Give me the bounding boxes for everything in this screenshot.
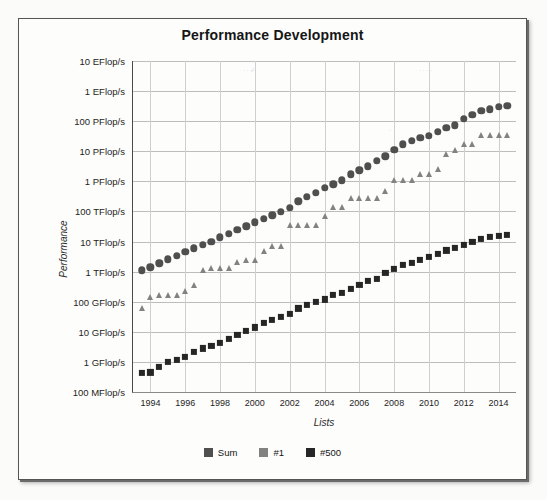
data-point-rank500 [304, 302, 310, 308]
data-point-rank1 [278, 243, 284, 249]
data-point-rank1 [365, 195, 371, 201]
gridline-vertical [150, 61, 151, 392]
y-axis-tick-label: 1 GFlop/s [84, 356, 125, 367]
data-point-Sum [451, 121, 458, 128]
data-point-rank1 [174, 292, 180, 298]
legend-label: Sum [218, 447, 238, 458]
gridline-vertical [464, 61, 465, 392]
y-axis-tick-label: 10 EFlop/s [80, 56, 125, 67]
data-point-rank500 [356, 282, 362, 288]
data-point-rank1 [156, 292, 162, 298]
data-point-Sum [199, 241, 206, 248]
data-point-Sum [338, 176, 345, 183]
data-point-Sum [173, 252, 180, 259]
legend-swatch-icon [204, 448, 213, 457]
data-point-rank500 [269, 317, 275, 323]
data-point-rank1 [182, 288, 188, 294]
data-point-rank500 [217, 339, 223, 345]
data-point-Sum [364, 162, 371, 169]
gridline-vertical [185, 61, 186, 392]
data-point-rank1 [391, 177, 397, 183]
data-point-rank500 [278, 314, 284, 320]
data-point-rank500 [287, 311, 293, 317]
data-point-rank500 [391, 266, 397, 272]
data-point-Sum [321, 184, 328, 191]
chart-title: Performance Development [19, 27, 526, 43]
gridline-vertical [394, 61, 395, 392]
gridline-vertical [499, 61, 500, 392]
y-axis-tick-label: 10 PFlop/s [80, 146, 125, 157]
gridline-vertical [325, 61, 326, 392]
data-point-Sum [216, 233, 223, 240]
data-point-Sum [303, 193, 310, 200]
data-point-rank500 [461, 242, 467, 248]
data-point-Sum [504, 102, 511, 109]
data-point-rank1 [313, 222, 319, 228]
data-point-Sum [356, 167, 363, 174]
data-point-Sum [234, 226, 241, 233]
data-point-rank500 [365, 278, 371, 284]
data-point-rank500 [348, 286, 354, 292]
data-point-rank1 [322, 213, 328, 219]
data-point-rank500 [330, 292, 336, 298]
data-point-rank500 [295, 305, 301, 311]
data-point-Sum [373, 157, 380, 164]
data-point-rank500 [426, 254, 432, 260]
x-axis-tick-label: 1996 [175, 398, 195, 408]
data-point-rank1 [208, 265, 214, 271]
legend-item[interactable]: #1 [259, 447, 284, 458]
data-point-rank1 [443, 151, 449, 157]
data-point-Sum [295, 197, 302, 204]
data-point-rank1 [330, 204, 336, 210]
data-point-rank1 [191, 282, 197, 288]
chart-page-frame: Performance Development Performance List… [18, 18, 527, 480]
data-point-rank500 [156, 363, 162, 369]
data-point-Sum [155, 260, 162, 267]
data-point-rank500 [173, 356, 179, 362]
data-point-rank1 [200, 267, 206, 273]
data-point-rank500 [469, 239, 475, 245]
y-axis-tick-label: 1 PFlop/s [85, 176, 125, 187]
x-axis-tick-label: 2012 [454, 398, 474, 408]
data-point-Sum [434, 128, 441, 135]
data-point-rank500 [382, 270, 388, 276]
data-point-rank500 [182, 354, 188, 360]
performance-development-chart: Performance Development Performance List… [19, 19, 526, 479]
data-point-Sum [164, 255, 171, 262]
y-axis-title: Performance [58, 220, 69, 277]
data-point-rank1 [348, 195, 354, 201]
data-point-rank1 [261, 248, 267, 254]
data-point-rank500 [252, 324, 258, 330]
legend-item[interactable]: #500 [306, 447, 341, 458]
x-axis-tick-label: 2008 [384, 398, 404, 408]
data-point-rank500 [260, 320, 266, 326]
data-point-rank500 [495, 233, 501, 239]
data-point-Sum [495, 103, 502, 110]
data-point-Sum [330, 181, 337, 188]
data-point-rank1 [356, 195, 362, 201]
legend-item[interactable]: Sum [204, 447, 238, 458]
data-point-Sum [347, 171, 354, 178]
data-point-rank1 [243, 257, 249, 263]
x-axis-title: Lists [132, 417, 516, 428]
data-point-rank500 [374, 275, 380, 281]
data-point-Sum [242, 223, 249, 230]
y-axis-tick-label: 100 MFlop/s [73, 387, 125, 398]
data-point-rank500 [400, 262, 406, 268]
data-point-rank1 [426, 171, 432, 177]
data-point-Sum [277, 208, 284, 215]
y-axis-tick-label: 100 GFlop/s [73, 296, 125, 307]
data-point-Sum [425, 132, 432, 139]
data-point-rank1 [217, 265, 223, 271]
legend-swatch-icon [306, 448, 315, 457]
data-point-rank1 [452, 147, 458, 153]
data-point-Sum [138, 267, 145, 274]
x-axis-tick-label: 2010 [419, 398, 439, 408]
data-point-rank500 [165, 359, 171, 365]
data-point-Sum [269, 212, 276, 219]
data-point-Sum [251, 219, 258, 226]
data-point-Sum [147, 264, 154, 271]
data-point-rank1 [417, 171, 423, 177]
chart-legend: Sum#1#500 [19, 447, 526, 458]
y-axis-tick-label: 10 TFlop/s [80, 236, 125, 247]
